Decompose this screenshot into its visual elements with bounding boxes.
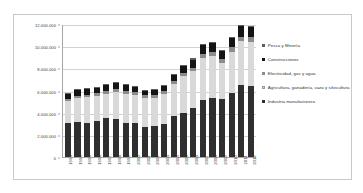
bar-column — [190, 25, 196, 157]
x-axis-tick: 1997 — [104, 159, 110, 181]
bar-segment — [84, 123, 90, 157]
x-axis-tick-label: 2002 — [155, 155, 160, 165]
bar-column — [180, 25, 186, 157]
y-axis-tick-label: 2.000.000 — [37, 133, 56, 138]
x-axis-tick-label: 2003 — [165, 155, 170, 165]
x-axis-tick-label: 1999 — [126, 155, 131, 165]
x-axis-tick: 2009 — [220, 159, 226, 181]
x-axis-tick-label: 1994 — [78, 155, 83, 165]
bar-segment — [103, 118, 109, 157]
y-axis-tick-mark — [58, 25, 60, 26]
bar-segment — [219, 63, 225, 99]
bar-column — [238, 25, 244, 157]
x-axis-tick-label: 2010 — [233, 155, 238, 165]
bar-segment — [142, 127, 148, 157]
bar-segment — [229, 52, 235, 93]
bar-column — [229, 25, 235, 157]
bar-segment — [180, 66, 186, 73]
bar-segment — [229, 93, 235, 157]
x-axis-tick: 2005 — [181, 159, 187, 181]
bar-segment — [65, 101, 71, 123]
bar-segment — [200, 58, 206, 100]
x-axis-tick-label: 1993 — [68, 155, 73, 165]
bar-segment — [94, 121, 100, 157]
x-axis-tick-label: 1996 — [97, 155, 102, 165]
bar-segment — [94, 96, 100, 121]
bar-segment — [238, 85, 244, 157]
legend-item-label: Industria manufacturera — [268, 99, 315, 105]
chart-figure: 12.000.00010.000.0008.000.0006.000.0004.… — [13, 14, 352, 180]
bar-column — [209, 25, 215, 157]
bar-segment — [209, 43, 215, 52]
bar-column — [151, 25, 157, 157]
bar-segment — [219, 99, 225, 157]
legend-item[interactable]: Construcciones — [262, 57, 350, 63]
bar-segment — [132, 123, 138, 157]
bar-segment — [248, 42, 254, 86]
bar-column — [84, 25, 90, 157]
bar-segment — [200, 45, 206, 54]
legend-item-label: Agricultura, ganadería, caza y silvicult… — [268, 85, 350, 91]
x-axis-tick: 2000 — [133, 159, 139, 181]
bar-segment — [248, 27, 254, 37]
x-axis-tick: 1995 — [84, 159, 90, 181]
legend-item-label: Electricidad, gas y agua — [268, 71, 316, 77]
legend-swatch-icon — [262, 100, 265, 103]
x-axis-tick-label: 1995 — [87, 155, 92, 165]
y-axis-tick-label: 10.000.000 — [35, 45, 56, 50]
bar-column — [161, 25, 167, 157]
legend-item[interactable]: Pesca y Minería — [262, 43, 350, 49]
bar-segment — [248, 86, 254, 157]
bar-segment — [171, 116, 177, 157]
legend-item-label: Construcciones — [268, 57, 299, 63]
y-axis-tick-label: 8.000.000 — [37, 67, 56, 72]
bar-segment — [200, 100, 206, 157]
bar-segment — [151, 98, 157, 126]
legend-item[interactable]: Agricultura, ganadería, caza y silvicult… — [262, 85, 350, 91]
bar-segment — [103, 94, 109, 118]
bar-segment — [238, 26, 244, 36]
bar-column — [65, 25, 71, 157]
x-axis-tick: 2007 — [200, 159, 206, 181]
x-axis-tick-label: 2008 — [213, 155, 218, 165]
plot-area — [62, 25, 256, 158]
x-axis: 1993199419951996199719981999200020012002… — [63, 159, 257, 181]
bar-column — [219, 25, 225, 157]
x-axis-tick: 1998 — [113, 159, 119, 181]
x-axis-tick: 2008 — [210, 159, 216, 181]
x-axis-tick: 2003 — [162, 159, 168, 181]
bar-segment — [74, 98, 80, 122]
x-axis-tick: 1994 — [74, 159, 80, 181]
bar-segment — [151, 126, 157, 157]
x-axis-tick-label: 2009 — [223, 155, 228, 165]
y-axis-tick-label: 4.000.000 — [37, 111, 56, 116]
chart-legend: Pesca y MineríaConstruccionesElectricida… — [262, 43, 350, 112]
bar-column — [103, 25, 109, 157]
bar-segment — [123, 123, 129, 157]
x-axis-tick: 1993 — [65, 159, 71, 181]
bar-segment — [190, 71, 196, 108]
x-axis-tick-label: 2004 — [174, 155, 179, 165]
bar-segment — [190, 60, 196, 68]
bar-segment — [74, 122, 80, 157]
x-axis-tick: 2004 — [171, 159, 177, 181]
legend-item[interactable]: Industria manufacturera — [262, 99, 350, 105]
bar-segment — [219, 51, 225, 59]
bar-column — [132, 25, 138, 157]
y-axis-tick-mark — [58, 91, 60, 92]
y-axis-tick-label: 12.000.000 — [35, 23, 56, 28]
y-axis-tick-mark — [58, 135, 60, 136]
legend-item[interactable]: Electricidad, gas y agua — [262, 71, 350, 77]
x-axis-tick: 1999 — [123, 159, 129, 181]
bar-column — [123, 25, 129, 157]
bar-segment — [209, 56, 215, 98]
y-axis-tick-mark — [58, 158, 60, 159]
x-axis-tick: 2010 — [229, 159, 235, 181]
x-axis-tick-label: 2006 — [194, 155, 199, 165]
bar-column — [94, 25, 100, 157]
legend-swatch-icon — [262, 86, 265, 89]
y-axis-tick-mark — [58, 69, 60, 70]
bar-column — [142, 25, 148, 157]
bar-column — [74, 25, 80, 157]
x-axis-tick-label: 2005 — [184, 155, 189, 165]
